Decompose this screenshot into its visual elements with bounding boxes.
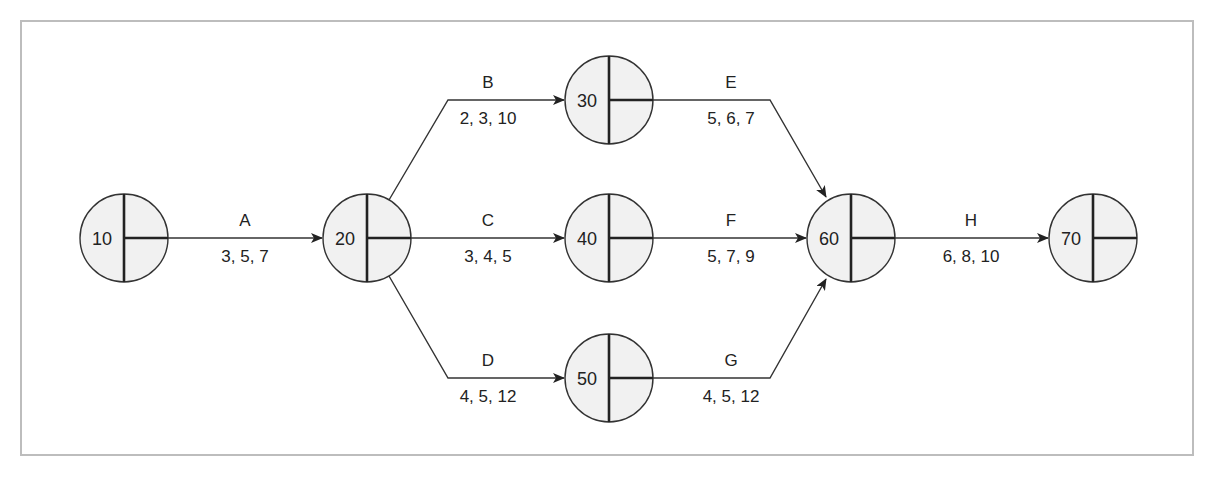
edge-label-F: F: [726, 211, 736, 230]
node-label: 70: [1061, 229, 1081, 249]
edge-G: [653, 279, 826, 378]
edge-times-E: 5, 6, 7: [707, 109, 754, 128]
node-40: 40: [565, 194, 653, 282]
edge-label-B: B: [482, 73, 493, 92]
edge-times-H: 6, 8, 10: [943, 247, 1000, 266]
pert-network: A 3, 5, 7 B 2, 3, 10 C 3, 4, 5 D 4, 5, 1…: [0, 0, 1218, 477]
node-label: 30: [577, 91, 597, 111]
node-label: 20: [335, 229, 355, 249]
node-60: 60: [807, 194, 895, 282]
edge-label-A: A: [239, 211, 251, 230]
node-label: 60: [819, 229, 839, 249]
node-50: 50: [565, 334, 653, 422]
edge-times-C: 3, 4, 5: [464, 247, 511, 266]
edge-times-D: 4, 5, 12: [460, 387, 517, 406]
edge-label-E: E: [725, 73, 736, 92]
edge-label-D: D: [482, 351, 494, 370]
node-label: 40: [577, 229, 597, 249]
node-70: 70: [1049, 194, 1137, 282]
edge-times-A: 3, 5, 7: [221, 247, 268, 266]
edge-times-F: 5, 7, 9: [707, 247, 754, 266]
edge-label-G: G: [724, 351, 737, 370]
edge-times-G: 4, 5, 12: [703, 387, 760, 406]
node-label: 10: [92, 229, 112, 249]
node-30: 30: [565, 56, 653, 144]
edge-label-H: H: [965, 211, 977, 230]
edge-D: [389, 276, 564, 378]
edge-label-C: C: [482, 211, 494, 230]
node-20: 20: [323, 194, 411, 282]
edge-times-B: 2, 3, 10: [460, 109, 517, 128]
node-label: 50: [577, 369, 597, 389]
node-10: 10: [80, 194, 168, 282]
